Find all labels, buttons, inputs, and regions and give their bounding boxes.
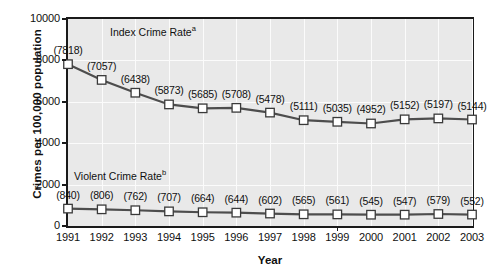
data-point-marker [266,108,275,117]
data-point-marker [299,210,308,219]
data-point-marker [232,104,241,113]
crime-rate-line-chart: Crimes per 100,000 population 0200040006… [0,0,499,276]
data-point-marker [131,206,140,215]
data-point-marker [97,76,106,85]
data-point-marker [198,208,207,217]
y-tick-mark [62,184,66,186]
data-point-marker [165,207,174,216]
data-point-marker [468,210,477,219]
data-point-value-label: (6438) [112,73,158,85]
data-point-marker [97,205,106,214]
data-point-marker [266,209,275,218]
y-axis-title: Crimes per 100,000 population [31,0,43,239]
data-point-marker [333,118,342,127]
data-point-marker [468,115,477,124]
data-point-marker [367,119,376,128]
data-point-marker [198,104,207,113]
y-tick-label: 6000 [4,95,60,107]
y-tick-label: 4000 [4,136,60,148]
data-point-marker [232,208,241,217]
y-tick-mark [62,18,66,20]
data-point-value-label: (7057) [79,60,125,72]
data-point-value-label: (7818) [45,44,91,56]
series-caption-violent-crime-rate: Violent Crime Rateb [74,168,166,182]
y-tick-label: 0 [4,219,60,231]
y-tick-mark [62,142,66,144]
x-axis-title: Year [66,254,474,266]
x-tick-mark [337,226,338,231]
data-point-value-label: (5144) [449,100,495,112]
data-point-marker [299,116,308,125]
y-tick-mark [62,101,66,103]
data-point-marker [367,210,376,219]
data-point-marker [400,210,409,219]
series-caption-index-crime-rate: Index Crime Ratea [110,24,196,38]
data-point-marker [400,115,409,124]
y-tick-mark [62,225,66,227]
y-tick-mark [62,59,66,61]
y-tick-label: 10000 [4,12,60,24]
data-point-value-label: (552) [449,195,495,207]
data-point-marker [333,210,342,219]
data-point-marker [64,204,73,213]
x-tick-label: 2003 [450,231,494,243]
data-point-marker [434,114,443,123]
data-point-marker [434,210,443,219]
data-point-marker [131,88,140,97]
data-point-marker [165,100,174,109]
